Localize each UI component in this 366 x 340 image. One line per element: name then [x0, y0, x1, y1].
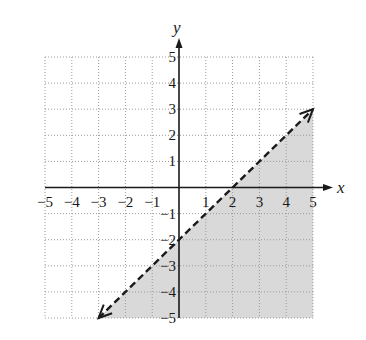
x-tick-label: −5	[37, 194, 53, 210]
y-tick-label: −5	[160, 310, 176, 326]
y-axis-label: y	[171, 18, 181, 37]
x-tick-label: −3	[91, 194, 107, 210]
y-tick-label: 5	[169, 49, 177, 65]
y-axis-arrow-icon	[176, 38, 183, 48]
y-tick-label: −1	[160, 206, 176, 222]
x-tick-label: 3	[256, 194, 264, 210]
x-tick-label: −2	[117, 194, 133, 210]
x-tick-label: −4	[64, 194, 80, 210]
x-tick-label: 4	[282, 194, 290, 210]
y-tick-label: 4	[169, 75, 177, 91]
y-tick-label: −3	[160, 258, 176, 274]
y-tick-label: 1	[169, 153, 177, 169]
y-tick-label: 3	[169, 101, 177, 117]
y-tick-label: 2	[169, 127, 177, 143]
x-tick-label: −1	[144, 194, 160, 210]
y-tick-label: −4	[160, 284, 176, 300]
x-tick-label: 1	[202, 194, 210, 210]
x-tick-label: 5	[309, 194, 317, 210]
x-axis-arrow-icon	[323, 184, 333, 191]
x-tick-label: 2	[229, 194, 237, 210]
x-axis-label: x	[336, 178, 345, 197]
y-tick-label: −2	[160, 232, 176, 248]
coordinate-plane-graph: xy−5−4−3−2−11234554321−1−2−3−4−5	[0, 0, 366, 340]
